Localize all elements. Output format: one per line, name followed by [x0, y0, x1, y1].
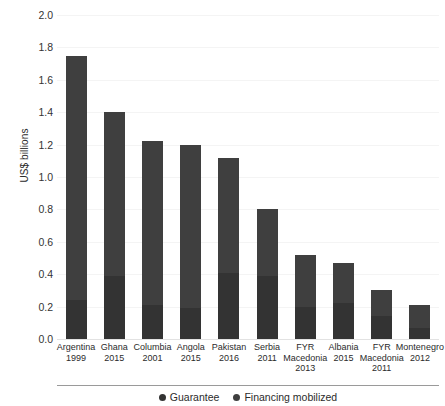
- plot-area: [57, 15, 439, 339]
- bar-segment-financing-mobilized[interactable]: [66, 56, 87, 301]
- chart-legend: GuaranteeFinancing mobilized: [57, 389, 439, 405]
- y-axis-tick-label: 1.4: [21, 107, 53, 118]
- gridline: [57, 80, 439, 81]
- bar-segment-financing-mobilized[interactable]: [409, 305, 430, 328]
- bar-segment-guarantee[interactable]: [66, 300, 87, 339]
- y-axis-tick-label: 0.4: [21, 269, 53, 280]
- x-axis-tick-label: Montenegro2012: [395, 342, 445, 363]
- bar-segment-financing-mobilized[interactable]: [333, 263, 354, 304]
- bar-segment-guarantee[interactable]: [409, 328, 430, 339]
- bar-segment-financing-mobilized[interactable]: [104, 112, 125, 276]
- bar-segment-guarantee[interactable]: [104, 276, 125, 339]
- bar-column[interactable]: [142, 141, 163, 339]
- y-axis-tick-label: 0.0: [21, 334, 53, 345]
- x-axis-year: 2012: [395, 353, 445, 364]
- bar-column[interactable]: [333, 263, 354, 339]
- bar-column[interactable]: [180, 145, 201, 339]
- x-axis-year: 2013: [280, 363, 330, 374]
- stacked-bar-chart: US$ billions 2.01.81.61.41.21.00.80.60.4…: [0, 0, 445, 406]
- gridline: [57, 339, 439, 340]
- bar-segment-guarantee[interactable]: [295, 307, 316, 339]
- bar-segment-financing-mobilized[interactable]: [295, 255, 316, 307]
- legend-marker-circle-icon: [233, 394, 240, 401]
- bar-column[interactable]: [295, 255, 316, 339]
- legend-marker-circle-icon: [159, 394, 166, 401]
- bar-column[interactable]: [409, 305, 430, 339]
- bar-column[interactable]: [257, 209, 278, 339]
- bar-column[interactable]: [66, 56, 87, 339]
- bar-segment-financing-mobilized[interactable]: [142, 141, 163, 305]
- bar-segment-guarantee[interactable]: [371, 316, 392, 339]
- gridline: [57, 47, 439, 48]
- bar-segment-guarantee[interactable]: [218, 273, 239, 339]
- bar-segment-financing-mobilized[interactable]: [180, 145, 201, 309]
- x-axis-tick-labels: Argentina1999Ghana2015Columbia2001Angola…: [57, 342, 439, 384]
- legend-label: Financing mobilized: [244, 391, 337, 403]
- y-axis-tick-label: 1.2: [21, 140, 53, 151]
- legend-item[interactable]: Financing mobilized: [233, 391, 337, 403]
- y-axis-tick-label: 0.6: [21, 237, 53, 248]
- bar-segment-financing-mobilized[interactable]: [257, 209, 278, 275]
- bar-segment-financing-mobilized[interactable]: [218, 158, 239, 273]
- bar-segment-guarantee[interactable]: [180, 308, 201, 339]
- bar-column[interactable]: [218, 158, 239, 339]
- legend-label: Guarantee: [170, 391, 220, 403]
- y-axis-tick-label: 1.6: [21, 75, 53, 86]
- bar-segment-guarantee[interactable]: [333, 303, 354, 339]
- y-axis-tick-label: 1.8: [21, 42, 53, 53]
- gridline: [57, 15, 439, 16]
- bar-segment-guarantee[interactable]: [142, 305, 163, 339]
- x-axis-year: 2011: [357, 363, 407, 374]
- legend-item[interactable]: Guarantee: [159, 391, 220, 403]
- bar-column[interactable]: [371, 290, 392, 339]
- y-axis-tick-label: 0.8: [21, 204, 53, 215]
- bar-segment-financing-mobilized[interactable]: [371, 290, 392, 316]
- bar-column[interactable]: [104, 112, 125, 339]
- y-axis-tick-label: 2.0: [21, 10, 53, 21]
- y-axis-tick-label: 1.0: [21, 172, 53, 183]
- bar-segment-guarantee[interactable]: [257, 276, 278, 339]
- y-axis-tick-label: 0.2: [21, 302, 53, 313]
- x-axis-country-name: Montenegro: [395, 342, 445, 353]
- legend-divider: [57, 385, 439, 386]
